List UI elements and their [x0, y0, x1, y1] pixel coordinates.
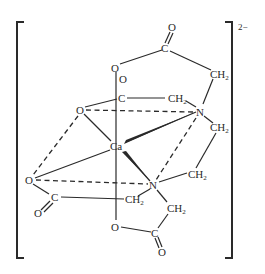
ca-edta-structure-diagram: 2−: [0, 0, 265, 274]
coordinate-bonds: [122, 112, 196, 181]
atom-o-left-carbonyl: O: [34, 207, 42, 219]
atom-c-bottom: C: [151, 227, 158, 239]
atom-n2: N: [149, 179, 157, 191]
atom-ch2-bottom: CH2: [167, 202, 186, 216]
complex-brackets: [17, 22, 232, 258]
atom-o-top-ester: O: [111, 62, 119, 74]
atom-ch2-left: CH2: [125, 193, 144, 207]
atom-n1: N: [196, 106, 204, 118]
atom-c-left: C: [51, 191, 58, 203]
atom-o-top-carbonyl: O: [168, 21, 176, 33]
atom-o-bottom-carbonyl: O: [158, 246, 166, 258]
atom-ca: Ca: [110, 140, 122, 152]
atom-c-top: C: [161, 42, 168, 54]
atom-ch2-top: CH2: [210, 68, 229, 82]
atom-o-bottom-ester: O: [111, 221, 119, 233]
atom-labels: O C O CH2 O C CH2 N CH2 O Ca O C O CH2 N…: [25, 21, 229, 258]
charge-label: 2−: [238, 22, 248, 32]
atom-ch2-bridge-upper: CH2: [210, 121, 229, 135]
right-bracket: [225, 22, 232, 258]
left-bracket: [17, 22, 24, 258]
atom-ch2-mid: CH2: [168, 92, 187, 106]
atom-ch2-bridge-lower: CH2: [188, 168, 207, 182]
atom-o-left-lower: O: [25, 174, 33, 186]
atom-o-mid-carbonyl: O: [119, 73, 127, 85]
atom-o-left-upper: O: [76, 104, 84, 116]
atom-c-mid: C: [118, 92, 125, 104]
